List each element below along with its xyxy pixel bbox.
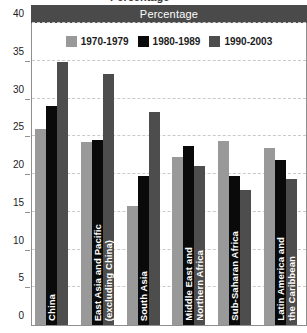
chart-header-title: Percentage bbox=[140, 8, 198, 20]
bar[interactable] bbox=[138, 176, 149, 325]
bar[interactable] bbox=[218, 141, 229, 325]
bar[interactable] bbox=[172, 157, 183, 325]
bar[interactable] bbox=[183, 146, 194, 325]
y-axis-tick-label: 10 bbox=[13, 234, 24, 245]
y-axis-tick-mark bbox=[25, 61, 30, 62]
bar[interactable] bbox=[103, 74, 114, 325]
clipped-top-text: Percentage bbox=[0, 0, 307, 4]
bar[interactable] bbox=[286, 179, 297, 325]
y-axis-tick-mark bbox=[25, 136, 30, 137]
y-axis-tick-mark bbox=[25, 174, 30, 175]
bar[interactable] bbox=[229, 176, 240, 325]
y-axis-tick-label: 25 bbox=[13, 121, 24, 132]
y-axis: 0510152025303540 bbox=[0, 23, 29, 326]
bar-group: South Asia bbox=[123, 23, 169, 325]
bar-group: Sub-Saharan Africa bbox=[215, 23, 261, 325]
bar[interactable] bbox=[35, 129, 46, 325]
bar[interactable] bbox=[194, 166, 205, 325]
y-axis-tick-mark bbox=[25, 99, 30, 100]
chart-header-band: Percentage bbox=[31, 5, 307, 23]
y-axis-tick-label: 0 bbox=[18, 310, 24, 321]
y-axis-tick-mark bbox=[25, 250, 30, 251]
y-axis-tick-label: 20 bbox=[13, 159, 24, 170]
bar[interactable] bbox=[46, 106, 57, 325]
bars-layer: ChinaEast Asia and Pacific (excluding Ch… bbox=[32, 23, 306, 325]
bar-group: Latin America and the Caribbean bbox=[260, 23, 306, 325]
y-axis-tick-label: 5 bbox=[18, 272, 24, 283]
bar[interactable] bbox=[127, 206, 138, 325]
bar[interactable] bbox=[275, 160, 286, 325]
bar[interactable] bbox=[149, 112, 160, 325]
bar[interactable] bbox=[92, 140, 103, 325]
bar-group: East Asia and Pacific (excluding China) bbox=[78, 23, 124, 325]
y-axis-tick-mark bbox=[25, 212, 30, 213]
y-axis-tick-label: 40 bbox=[13, 8, 24, 19]
chart-figure: Percentage Percentage 0510152025303540 1… bbox=[0, 0, 307, 333]
y-axis-tick-label: 15 bbox=[13, 196, 24, 207]
bar-group: Middle East and Northern Africa bbox=[169, 23, 215, 325]
bar[interactable] bbox=[264, 148, 275, 325]
bar[interactable] bbox=[57, 62, 68, 325]
bar[interactable] bbox=[240, 190, 251, 325]
bar[interactable] bbox=[81, 142, 92, 325]
y-axis-tick-label: 35 bbox=[13, 45, 24, 56]
y-axis-tick-label: 30 bbox=[13, 83, 24, 94]
y-axis-tick-mark bbox=[25, 287, 30, 288]
bar-group: China bbox=[32, 23, 78, 325]
